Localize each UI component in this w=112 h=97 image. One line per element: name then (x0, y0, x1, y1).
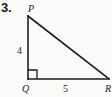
vertex-label-p: P (28, 4, 34, 14)
geometry-figure: 3. P Q R 4 5 (0, 0, 112, 97)
triangle-outline (28, 16, 109, 79)
hypotenuse-PR (28, 16, 109, 79)
side-length-label-vertical: 4 (17, 46, 22, 56)
right-angle-marker (28, 70, 37, 79)
vertex-label-q: Q (22, 84, 29, 94)
vertex-label-r: R (105, 84, 111, 94)
side-length-label-horizontal: 5 (63, 84, 68, 94)
